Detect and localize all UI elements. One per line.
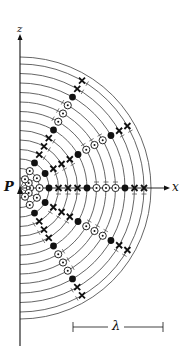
dipole-radiation-diagram xyxy=(0,0,195,354)
field-in-icon xyxy=(116,128,122,134)
node-icon xyxy=(31,159,38,166)
field-in-icon xyxy=(50,204,56,210)
field-in-icon xyxy=(116,242,122,248)
field-in-icon xyxy=(59,161,65,167)
node-icon xyxy=(69,94,76,101)
node-icon xyxy=(69,276,76,283)
field-in-icon xyxy=(59,209,65,215)
wavelength-label: λ xyxy=(112,319,120,332)
z-axis-label: z xyxy=(17,24,22,34)
node-icon xyxy=(75,151,82,158)
field-in-icon xyxy=(74,284,80,290)
node-icon xyxy=(42,170,49,177)
node-icon xyxy=(108,132,115,139)
node-icon xyxy=(108,237,115,244)
x-axis-label: x xyxy=(172,181,179,193)
field-in-icon xyxy=(79,78,85,84)
field-in-icon xyxy=(36,152,42,158)
field-in-icon xyxy=(74,86,80,92)
node-icon xyxy=(122,185,129,192)
node-icon xyxy=(75,218,82,225)
z-arrow-icon xyxy=(18,34,23,40)
field-in-icon xyxy=(67,156,73,162)
node-icon xyxy=(31,210,38,217)
field-in-icon xyxy=(46,235,52,241)
x-arrow-icon xyxy=(164,186,170,191)
field-in-icon xyxy=(41,143,47,149)
field-in-icon xyxy=(124,123,130,129)
dipole-arrow-icon xyxy=(17,186,23,194)
field-in-icon xyxy=(79,292,85,298)
field-in-icon xyxy=(41,227,47,233)
node-icon xyxy=(50,243,57,250)
node-icon xyxy=(50,127,57,134)
field-in-icon xyxy=(50,166,56,172)
node-icon xyxy=(84,185,91,192)
field-in-icon xyxy=(36,218,42,224)
origin-label: P xyxy=(4,180,14,193)
field-markers xyxy=(21,78,147,301)
field-in-icon xyxy=(46,135,52,141)
field-in-icon xyxy=(67,214,73,220)
node-icon xyxy=(46,185,53,192)
node-icon xyxy=(42,199,49,206)
field-in-icon xyxy=(124,247,130,253)
